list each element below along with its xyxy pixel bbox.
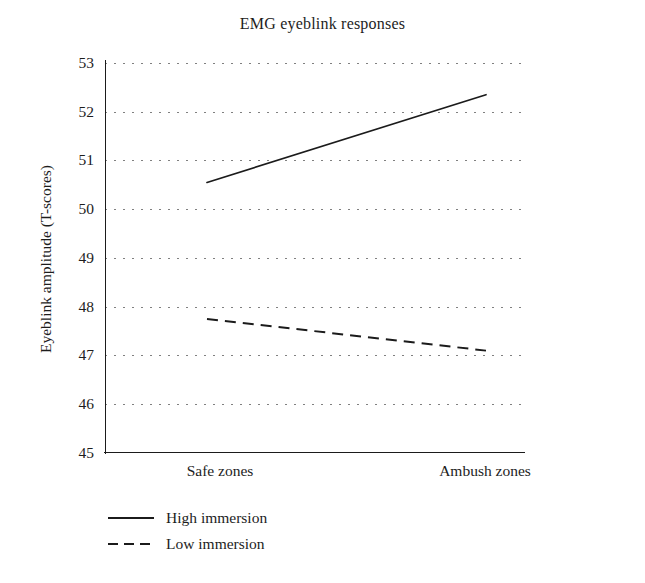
chart-legend: High immersion Low immersion [108,505,267,557]
gridline-52 [105,112,525,113]
y-tick-label-48: 48 [54,299,94,315]
gridline-49 [105,258,525,259]
dashed-line-swatch-icon [108,538,154,550]
chart-figure: EMG eyeblink responses Eyeblink amplitud… [0,0,645,583]
y-axis-title: Eyeblink amplitude (T-scores) [37,109,55,409]
legend-item-low-immersion: Low immersion [108,531,267,557]
gridline-48 [105,307,525,308]
y-tick-label-50: 50 [54,201,94,217]
gridline-51 [105,160,525,161]
legend-label-high-immersion: High immersion [166,509,267,527]
y-tick-label-52: 52 [54,104,94,120]
y-tick-label-51: 51 [54,152,94,168]
gridline-47 [105,355,525,356]
gridline-50 [105,209,525,210]
x-tick-label-safe-zones: Safe zones [120,462,320,480]
chart-title: EMG eyeblink responses [0,15,645,33]
plot-area [105,63,525,453]
y-tick-label-46: 46 [54,396,94,412]
y-tick-label-47: 47 [54,347,94,363]
gridline-46 [105,404,525,405]
solid-line-swatch-icon [108,512,154,524]
y-axis-line [105,60,106,454]
x-tick-label-ambush-zones: Ambush zones [385,462,585,480]
y-tick-label-49: 49 [54,250,94,266]
legend-item-high-immersion: High immersion [108,505,267,531]
legend-label-low-immersion: Low immersion [166,535,265,553]
x-axis-line [104,452,525,453]
gridline-53 [105,63,525,64]
y-tick-label-45: 45 [54,445,94,461]
y-tick-label-53: 53 [54,55,94,71]
